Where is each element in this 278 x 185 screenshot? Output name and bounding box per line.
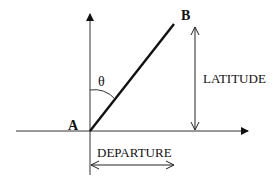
theta-label: θ [98,74,105,89]
point-b-label: B [181,8,190,23]
angle-arc [90,90,115,99]
point-a-label: A [68,118,79,133]
latitude-label: LATITUDE [203,71,266,86]
latitude-departure-diagram: A B θ LATITUDE DEPARTURE [0,0,278,185]
departure-label: DEPARTURE [97,145,172,160]
